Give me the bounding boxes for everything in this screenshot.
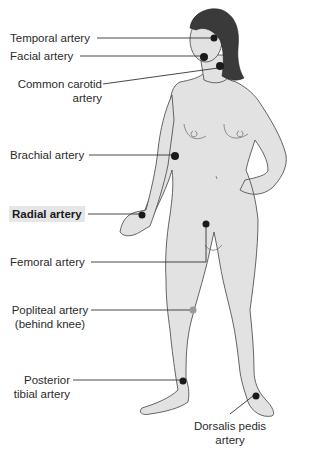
label-line-2: artery bbox=[180, 433, 280, 447]
pulse-point-dorsalis-pedis[interactable] bbox=[253, 393, 260, 400]
label-temporal-artery: Temporal artery bbox=[10, 31, 90, 45]
pulse-point-temporal[interactable] bbox=[211, 35, 218, 42]
label-line-1: Dorsalis pedis bbox=[180, 419, 280, 433]
label-line-2: tibial artery bbox=[0, 387, 70, 401]
label-dorsalis-pedis-artery: Dorsalis pedis artery bbox=[180, 419, 280, 447]
pulse-point-carotid[interactable] bbox=[216, 62, 224, 70]
label-popliteal-artery: Popliteal artery (behind knee) bbox=[8, 303, 92, 331]
pulse-point-radial[interactable] bbox=[139, 212, 146, 219]
label-common-carotid-artery: Common carotid artery bbox=[10, 77, 102, 105]
label-posterior-tibial-artery: Posterior tibial artery bbox=[0, 373, 70, 401]
label-line-1: Common carotid bbox=[10, 77, 102, 91]
label-line-1: Popliteal artery bbox=[8, 303, 92, 317]
label-brachial-artery: Brachial artery bbox=[10, 148, 84, 162]
label-radial-artery: Radial artery bbox=[9, 206, 85, 222]
label-line-2: (behind knee) bbox=[8, 317, 92, 331]
label-femoral-artery: Femoral artery bbox=[10, 255, 85, 269]
label-facial-artery: Facial artery bbox=[10, 49, 73, 63]
pulse-point-posterior-tibial[interactable] bbox=[180, 378, 187, 385]
pulse-point-femoral[interactable] bbox=[203, 221, 210, 228]
label-line-2: artery bbox=[10, 91, 102, 105]
pulse-point-popliteal[interactable] bbox=[190, 307, 197, 314]
pulse-point-brachial[interactable] bbox=[171, 152, 179, 160]
label-line-1: Posterior bbox=[0, 373, 70, 387]
pulse-point-facial[interactable] bbox=[200, 53, 208, 61]
